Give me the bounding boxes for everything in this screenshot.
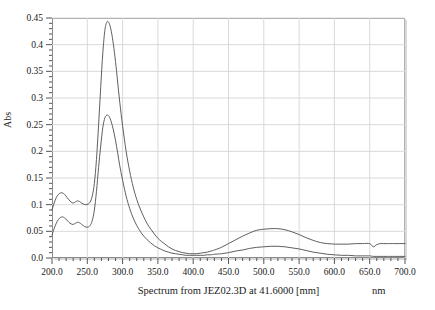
y-tick-label: 0.15 bbox=[0, 173, 43, 183]
spectrum-chart: 0.00.050.10.150.20.250.30.350.40.45 200.… bbox=[0, 0, 435, 310]
gridlines bbox=[52, 18, 405, 258]
y-tick-label: 0.0 bbox=[0, 253, 43, 263]
y-tick-label: 0.1 bbox=[0, 200, 43, 210]
x-axis-unit-label: nm bbox=[372, 285, 385, 296]
y-tick-label: 0.3 bbox=[0, 93, 43, 103]
y-tick-label: 0.4 bbox=[0, 40, 43, 50]
x-tick-label: 700.0 bbox=[380, 267, 430, 277]
chart-caption: Spectrum from JEZ02.3D at 41.6000 [mm] bbox=[52, 285, 405, 296]
y-tick-label: 0.35 bbox=[0, 66, 43, 76]
axis-ticks bbox=[46, 18, 405, 264]
chart-vector-layer bbox=[0, 0, 435, 310]
y-tick-label: 0.2 bbox=[0, 146, 43, 156]
y-tick-label: 0.05 bbox=[0, 226, 43, 236]
y-axis-title: Abs bbox=[2, 112, 13, 128]
y-tick-label: 0.45 bbox=[0, 13, 43, 23]
